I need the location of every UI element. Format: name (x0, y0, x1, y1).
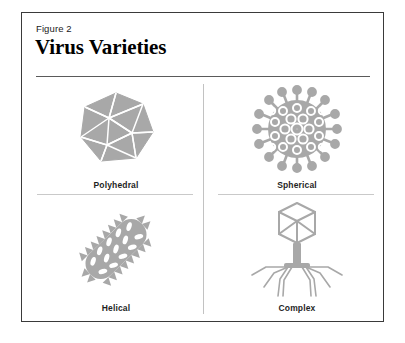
figure-number: Figure 2 (36, 23, 72, 34)
icosahedron-virus-icon (31, 85, 201, 180)
title-divider-rule (36, 76, 370, 77)
quadrant-label-helical: Helical (31, 303, 201, 313)
helical-virus-icon (31, 201, 201, 301)
spherical-virus-icon (212, 85, 382, 180)
quadrant-spherical: Spherical (212, 85, 382, 200)
quadrant-label-spherical: Spherical (212, 180, 382, 190)
quadrant-label-complex: Complex (212, 303, 382, 313)
vertical-divider (203, 84, 204, 314)
quadrant-label-polyhedral: Polyhedral (31, 180, 201, 190)
label-rule-polyhedral (37, 194, 193, 195)
quadrant-helical: Helical (31, 201, 201, 316)
figure-title: Virus Varieties (35, 35, 166, 60)
label-rule-spherical (218, 194, 374, 195)
quadrant-complex: Complex (212, 201, 382, 316)
figure-panel: Figure 2 Virus Varieties (21, 12, 384, 322)
quadrant-polyhedral: Polyhedral (31, 85, 201, 200)
complex-bacteriophage-icon (212, 201, 382, 301)
